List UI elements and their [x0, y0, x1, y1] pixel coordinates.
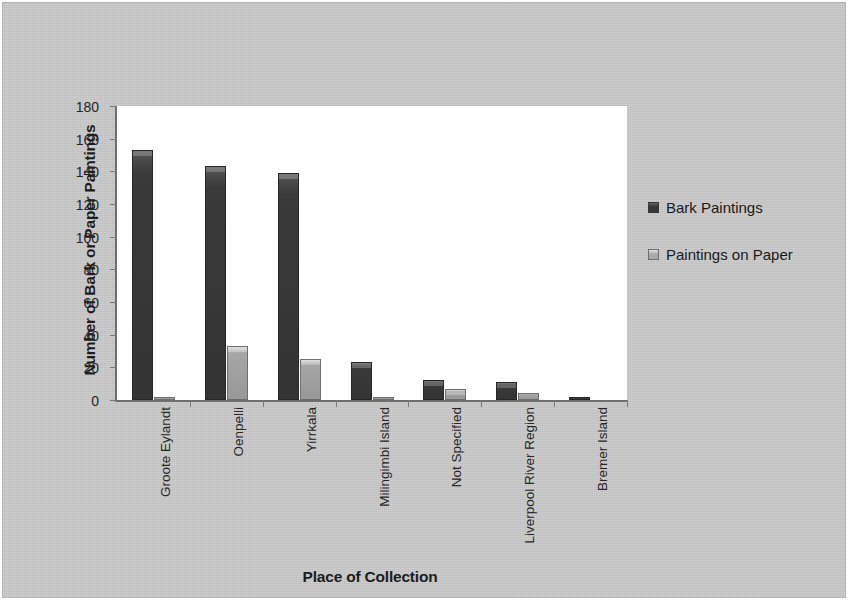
y-axis-tick-label: 160 [76, 132, 99, 148]
x-axis-label-not-specified: Not Specified [449, 407, 464, 487]
bar-group [351, 106, 394, 400]
legend-swatch-light-icon [648, 249, 659, 260]
x-axis-tick [408, 400, 409, 407]
y-axis-tick: 0 [110, 400, 117, 401]
y-axis-tick-label: 120 [76, 197, 99, 213]
bar-highlight-cap [446, 390, 465, 395]
bar-bark-paintings [423, 380, 444, 400]
bar-group [205, 106, 248, 400]
legend-swatch-dark-icon [648, 202, 659, 213]
y-axis-tick: 80 [110, 269, 117, 270]
x-axis-label-yirrkala: Yirrkala [304, 407, 319, 452]
bar-highlight-cap [206, 167, 225, 172]
bar-highlight-cap [424, 381, 443, 386]
bar-bark-paintings [496, 382, 517, 400]
x-axis-label-milingimbi-island: Milingimbi Island [377, 407, 392, 507]
x-axis-label-liverpool-river-region: Liverpool River Region [522, 407, 537, 544]
bar-group [569, 106, 612, 400]
x-axis-tick [336, 400, 337, 407]
bar-bark-paintings [278, 173, 299, 400]
bar-group [132, 106, 175, 400]
y-axis-tick-label: 100 [76, 230, 99, 246]
chart-legend: Bark PaintingsPaintings on Paper [648, 199, 838, 293]
y-axis-tick: 120 [110, 204, 117, 205]
y-axis-tick: 100 [110, 237, 117, 238]
bar-group [423, 106, 466, 400]
bar-paintings-on-paper [373, 397, 394, 400]
y-axis-tick: 20 [110, 367, 117, 368]
y-axis-tick: 40 [110, 335, 117, 336]
bar-highlight-cap [352, 363, 371, 368]
bar-group [496, 106, 539, 400]
y-axis-tick-label: 40 [83, 328, 99, 344]
y-axis-tick: 180 [110, 106, 117, 107]
x-axis-tick [554, 400, 555, 407]
y-axis-tick: 140 [110, 171, 117, 172]
bar-group [278, 106, 321, 400]
y-axis-tick-label: 80 [83, 262, 99, 278]
bar-highlight-cap [228, 347, 247, 352]
x-axis-tick [627, 400, 628, 407]
bar-highlight-cap [133, 151, 152, 156]
bar-bark-paintings [205, 166, 226, 400]
x-axis-label-groote-eylandt: Groote Eylandt [158, 407, 173, 497]
y-axis-tick: 160 [110, 139, 117, 140]
legend-item-paintings-on-paper[interactable]: Paintings on Paper [648, 246, 838, 263]
y-axis-tick-label: 140 [76, 164, 99, 180]
x-axis-label-oenpelli: Oenpelli [231, 407, 246, 457]
bar-paintings-on-paper [227, 346, 248, 400]
bar-highlight-cap [497, 383, 516, 388]
y-axis-tick: 60 [110, 302, 117, 303]
y-axis-tick-label: 20 [83, 360, 99, 376]
bar-bark-paintings [569, 397, 590, 400]
bar-highlight-cap [279, 174, 298, 179]
plot-area: 020406080100120140160180 [115, 106, 627, 402]
bar-bark-paintings [132, 150, 153, 400]
bar-paintings-on-paper [300, 359, 321, 400]
bar-bark-paintings [351, 362, 372, 400]
bar-paintings-on-paper [154, 397, 175, 400]
y-axis-tick-label: 0 [91, 393, 99, 409]
legend-label: Paintings on Paper [666, 246, 793, 263]
bar-paintings-on-paper [445, 389, 466, 400]
bar-highlight-cap [301, 360, 320, 365]
x-axis-label-bremer-island: Bremer Island [595, 407, 610, 491]
x-axis-tick [481, 400, 482, 407]
x-axis-tick [263, 400, 264, 407]
chart-panel: Number of Bark or Paper Paintings 020406… [2, 2, 846, 598]
y-axis-tick-label: 180 [76, 99, 99, 115]
legend-item-bark-paintings[interactable]: Bark Paintings [648, 199, 838, 216]
x-axis-tick [190, 400, 191, 407]
x-axis-title: Place of Collection [115, 568, 625, 586]
y-axis-tick-label: 60 [83, 295, 99, 311]
legend-label: Bark Paintings [666, 199, 763, 216]
bar-paintings-on-paper [518, 393, 539, 400]
